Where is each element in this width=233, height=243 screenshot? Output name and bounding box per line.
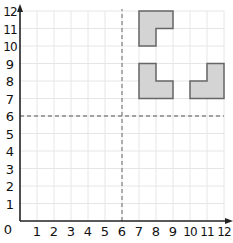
x-tick-label: 10 — [183, 225, 197, 239]
y-tick-label: 9 — [6, 57, 14, 72]
y-tick-label: 1 — [6, 197, 14, 212]
l-shape-bottom-right — [190, 64, 224, 99]
y-tick-label: 5 — [6, 127, 14, 142]
x-tick-label: 4 — [84, 224, 92, 239]
y-tick-label: 3 — [6, 162, 14, 177]
x-tick-label: 9 — [169, 224, 177, 239]
y-tick-label: 7 — [6, 92, 14, 107]
l-shape-bottom-left — [139, 64, 173, 99]
shapes — [139, 11, 224, 99]
x-tick-label: 3 — [67, 224, 75, 239]
x-tick-label: 1 — [33, 224, 41, 239]
x-tick-label: 2 — [50, 224, 58, 239]
x-tick-label: 12 — [217, 225, 231, 239]
x-tick-label: 8 — [152, 224, 160, 239]
x-tick-label: 7 — [135, 224, 143, 239]
x-tick-label: 6 — [118, 224, 126, 239]
y-tick-label: 8 — [6, 74, 14, 89]
y-tick-label: 12 — [3, 5, 17, 19]
y-tick-label: 4 — [6, 144, 14, 159]
y-axis-arrow-icon — [17, 4, 23, 12]
coordinate-grid: 0123456789101112123456789101112 — [0, 0, 233, 243]
x-axis-arrow-icon — [225, 218, 233, 224]
l-shape-top — [139, 11, 173, 46]
origin-label: 0 — [4, 222, 12, 237]
x-tick-label: 11 — [200, 225, 214, 239]
x-tick-label: 5 — [101, 224, 109, 239]
y-tick-label: 10 — [3, 40, 17, 54]
y-tick-label: 2 — [6, 179, 14, 194]
y-tick-label: 6 — [6, 109, 14, 124]
axes — [17, 4, 233, 224]
y-tick-label: 11 — [3, 23, 17, 37]
